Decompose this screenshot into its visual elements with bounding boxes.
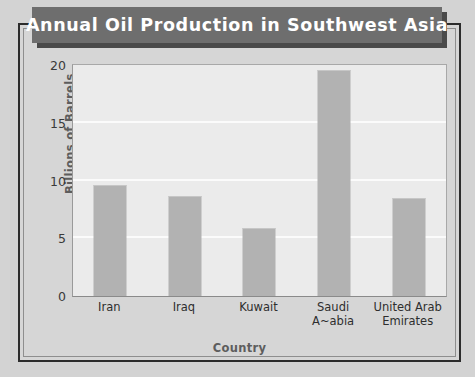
bar — [318, 70, 351, 296]
x-axis-category-label: SaudiA~abia — [291, 300, 375, 328]
bar-slot — [73, 65, 148, 296]
x-axis-category-label: United ArabEmirates — [366, 300, 450, 328]
x-axis-category-label: Iran — [67, 300, 151, 314]
x-axis-category-label: Iraq — [142, 300, 226, 314]
bar — [392, 198, 425, 296]
bar — [94, 185, 127, 296]
bar-series — [73, 65, 446, 296]
x-axis-title: Country — [18, 341, 461, 355]
y-axis-tick-label: 0 — [58, 289, 66, 304]
bar-slot — [222, 65, 297, 296]
y-axis-tick-label: 5 — [58, 231, 66, 246]
chart-area: Billions of Barrels 05101520 IranIraqKuw… — [18, 23, 461, 362]
bar-slot — [148, 65, 223, 296]
bar-slot — [371, 65, 446, 296]
y-axis-tick-label: 20 — [50, 58, 66, 73]
plot-area: 05101520 — [72, 64, 447, 297]
bar-slot — [297, 65, 372, 296]
y-axis-tick-label: 10 — [50, 173, 66, 188]
y-axis-tick-label: 15 — [50, 115, 66, 130]
title-banner: Annual Oil Production in Southwest Asia — [32, 7, 442, 43]
chart-title: Annual Oil Production in Southwest Asia — [26, 15, 448, 35]
scanned-chart-page: Billions of Barrels 05101520 IranIraqKuw… — [0, 0, 475, 377]
x-axis-category-label: Kuwait — [217, 300, 301, 314]
bar — [168, 196, 201, 296]
bar — [243, 228, 276, 296]
